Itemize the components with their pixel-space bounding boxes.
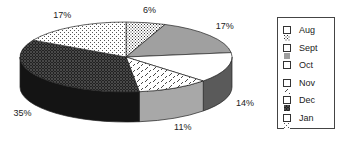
legend-item-oct: Oct — [283, 59, 313, 71]
data-label-oct: 14% — [236, 98, 254, 108]
legend-swatch-oct — [283, 61, 291, 69]
legend-swatch-sept — [283, 44, 291, 52]
data-label-dec: 35% — [14, 108, 32, 118]
legend-label: Sept — [299, 43, 318, 53]
legend-label: Oct — [299, 60, 313, 70]
pie-chart: 6%17%14%11%35%17% — [0, 0, 270, 145]
data-label-jan: 17% — [53, 10, 71, 20]
legend: AugSeptOctNovDecJan — [277, 17, 335, 129]
data-label-aug: 6% — [143, 5, 156, 15]
legend-swatch-nov — [283, 79, 291, 87]
data-label-nov: 11% — [174, 122, 191, 132]
legend-item-nov: Nov — [283, 77, 315, 89]
legend-swatch-dec — [283, 96, 291, 104]
legend-item-dec: Dec — [283, 94, 315, 106]
legend-label: Nov — [299, 78, 315, 88]
legend-label: Dec — [299, 95, 315, 105]
pie-top-faces — [20, 22, 232, 92]
data-label-sept: 17% — [216, 21, 234, 31]
legend-label: Jan — [299, 113, 314, 123]
legend-item-jan: Jan — [283, 112, 314, 124]
legend-swatch-jan — [283, 114, 291, 122]
legend-item-sept: Sept — [283, 42, 318, 54]
legend-swatch-aug — [283, 26, 291, 34]
legend-item-aug: Aug — [283, 24, 315, 36]
legend-label: Aug — [299, 25, 315, 35]
